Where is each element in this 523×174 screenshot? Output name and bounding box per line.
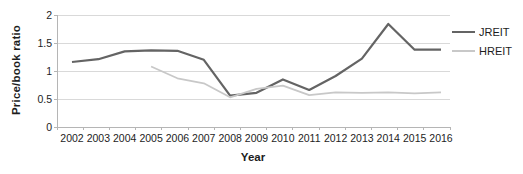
x-tick-label: 2006: [163, 132, 191, 145]
jreit-line-sample: [452, 31, 475, 33]
x-tick-label: 2011: [295, 132, 323, 145]
hreit-legend-label: HREIT: [479, 45, 512, 57]
x-axis-tick-labels: 2002200320042005200620072008200920102011…: [0, 132, 523, 146]
x-tick-label: 2013: [348, 132, 376, 145]
legend-item-jreit: JREIT: [452, 25, 512, 38]
x-tick-label: 2007: [190, 132, 218, 145]
plot-area: [0, 0, 523, 174]
x-tick-label: 2008: [216, 132, 244, 145]
x-tick-label: 2014: [374, 132, 402, 145]
x-tick-label: 2004: [111, 132, 139, 145]
x-tick-label: 2010: [269, 132, 297, 145]
x-tick-label: 2012: [322, 132, 350, 145]
hreit-line-sample: [452, 50, 475, 52]
y-tick-label: 1: [20, 64, 52, 78]
jreit-legend-label: JREIT: [479, 26, 510, 38]
x-tick-label: 2016: [427, 132, 455, 145]
y-tick-label: 2: [20, 8, 52, 22]
y-tick-label: 1.5: [20, 36, 52, 50]
price-book-ratio-chart: Price/book ratio Year 00.511.52 20022003…: [0, 0, 523, 174]
legend: JREIT HREIT: [452, 25, 512, 57]
x-tick-label: 2002: [58, 132, 86, 145]
y-tick-label: 0.5: [20, 92, 52, 106]
x-tick-label: 2005: [137, 132, 165, 145]
x-tick-label: 2015: [401, 132, 429, 145]
x-axis-title: Year: [203, 151, 303, 163]
legend-item-hreit: HREIT: [452, 44, 512, 57]
jreit-series-line: [72, 24, 441, 96]
x-tick-label: 2003: [84, 132, 112, 145]
x-tick-label: 2009: [243, 132, 271, 145]
